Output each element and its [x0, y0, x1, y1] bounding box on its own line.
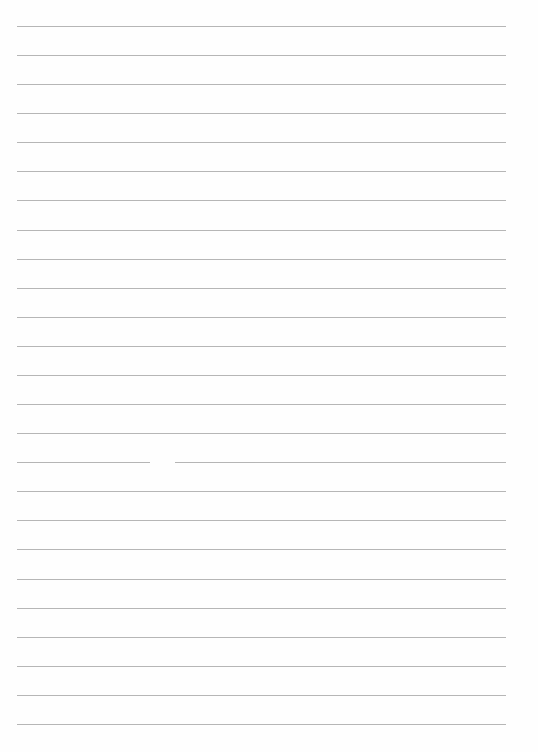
ruled-line	[17, 171, 506, 172]
ruled-line	[17, 84, 506, 85]
ruled-line	[17, 288, 506, 289]
ruled-line	[17, 375, 506, 376]
ruled-line	[17, 579, 506, 580]
ruled-line	[17, 695, 506, 696]
ruled-line	[17, 55, 506, 56]
ruled-line	[17, 26, 506, 27]
ruled-line	[17, 608, 506, 609]
ruled-line	[17, 142, 506, 143]
ruled-line	[17, 317, 506, 318]
ruled-line	[17, 113, 506, 114]
ruled-line	[17, 346, 506, 347]
ruled-line	[17, 404, 506, 405]
ruled-line	[17, 491, 506, 492]
lined-paper-page	[0, 0, 538, 752]
ruled-line	[17, 724, 506, 725]
ruled-line	[17, 462, 506, 463]
ruled-line	[17, 200, 506, 201]
ruled-line	[17, 520, 506, 521]
ruled-line	[17, 637, 506, 638]
ruled-line	[17, 259, 506, 260]
ruled-line	[17, 433, 506, 434]
ruled-line	[17, 549, 506, 550]
ruled-line	[17, 666, 506, 667]
ruled-line	[17, 230, 506, 231]
